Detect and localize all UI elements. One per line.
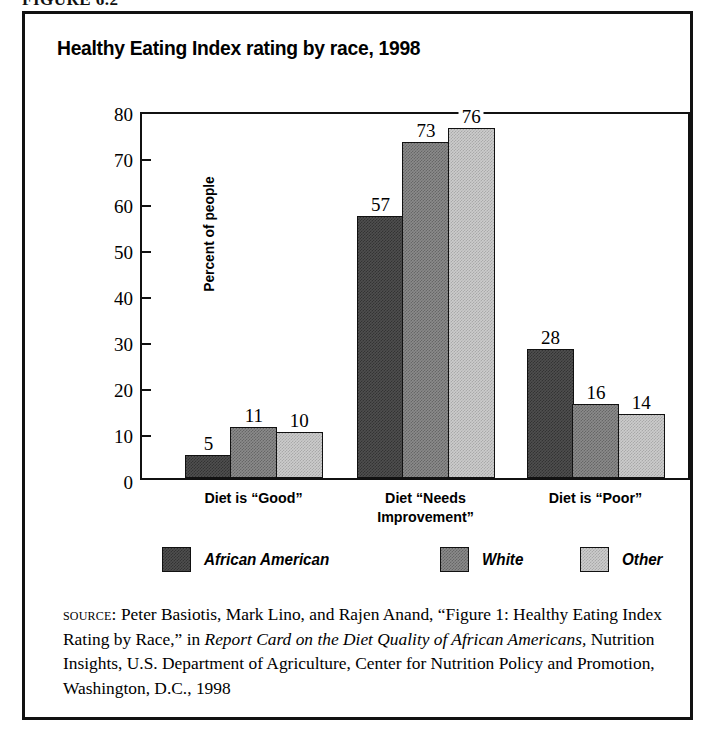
y-tick-label: 30	[114, 335, 133, 354]
legend-label: Other	[622, 551, 663, 569]
y-tick-mark	[142, 389, 151, 391]
figure-caption: FIGURE 6.2	[22, 0, 119, 6]
bar[interactable]: 76	[448, 128, 495, 478]
legend-item[interactable]: African American	[162, 547, 336, 572]
bar-value-label: 14	[629, 393, 654, 412]
legend-label: African American	[204, 551, 329, 569]
bar-group: 281614	[527, 114, 668, 478]
bar-group: 51110	[185, 114, 326, 478]
y-tick-mark	[142, 297, 151, 299]
y-tick-label: 60	[114, 197, 133, 216]
y-tick-label: 20	[114, 381, 133, 400]
y-tick-label: 40	[114, 289, 133, 308]
legend-swatch	[440, 547, 469, 572]
bar[interactable]: 14	[618, 414, 665, 478]
source-text-italic: Report Card on the Diet Quality of Afric…	[205, 629, 587, 649]
bar-value-label: 73	[413, 121, 438, 140]
category-label: Diet is “Poor”	[508, 488, 684, 507]
y-tick-mark	[142, 435, 151, 437]
bar[interactable]: 28	[527, 349, 574, 478]
legend-swatch	[580, 547, 609, 572]
bar-value-label: 5	[201, 434, 217, 453]
chart-title: Healthy Eating Index rating by race, 199…	[57, 36, 420, 60]
category-label: Diet “NeedsImprovement”	[338, 488, 514, 526]
source-label: source:	[63, 604, 117, 624]
y-tick-label: 50	[114, 243, 133, 262]
y-tick-mark	[142, 159, 151, 161]
figure-frame: Healthy Eating Index rating by race, 199…	[22, 11, 693, 720]
bar[interactable]: 16	[572, 404, 619, 478]
category-label-line: Diet is “Poor”	[508, 488, 684, 507]
category-label: Diet is “Good”	[166, 488, 342, 507]
bar-value-label: 57	[368, 195, 393, 214]
y-tick-label: 10	[114, 427, 133, 446]
bar-value-label: 16	[583, 383, 608, 402]
bar-value-label: 76	[459, 107, 484, 126]
category-label-line: Diet “Needs	[338, 488, 514, 507]
bar-value-label: 10	[287, 411, 312, 430]
source-note: source: Peter Basiotis, Mark Lino, and R…	[63, 602, 693, 701]
bar-group: 577376	[357, 114, 498, 478]
y-tick-label: 0	[124, 473, 134, 492]
bar[interactable]: 73	[402, 142, 449, 478]
bar[interactable]: 11	[230, 427, 277, 478]
chart-legend: African AmericanWhiteOther	[140, 547, 690, 581]
legend-item[interactable]: White	[440, 547, 526, 572]
bar[interactable]: 57	[357, 216, 404, 478]
y-tick-label: 70	[114, 151, 133, 170]
legend-swatch	[162, 547, 191, 572]
y-tick-mark	[142, 205, 151, 207]
legend-item[interactable]: Other	[580, 547, 665, 572]
category-label-line: Diet is “Good”	[166, 488, 342, 507]
y-tick-mark	[142, 343, 151, 345]
bar[interactable]: 5	[185, 455, 232, 478]
bar-value-label: 28	[538, 328, 563, 347]
bar-value-label: 11	[242, 406, 266, 425]
category-label-line: Improvement”	[338, 507, 514, 526]
legend-label: White	[482, 551, 523, 569]
y-tick-label: 80	[114, 105, 133, 124]
plot-area: Percent of people 01020304050607080 5111…	[140, 112, 690, 480]
y-tick-mark	[142, 251, 151, 253]
bar[interactable]: 10	[276, 432, 323, 478]
